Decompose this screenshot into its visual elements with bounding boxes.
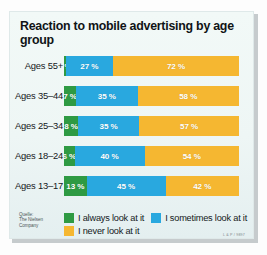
bar-segment-value: 6 % <box>64 152 75 161</box>
legend-item-always: I always look at it <box>64 213 144 223</box>
bar-segment-value: 35 % <box>98 92 116 101</box>
bar-segment-value: 45 % <box>117 182 135 191</box>
stacked-bar: 1 %27 %72 % <box>64 56 239 76</box>
bar-segment-always: 7 % <box>64 86 76 106</box>
bar-segment-value: 35 % <box>100 122 118 131</box>
bar-segment-value: 40 % <box>100 152 118 161</box>
bar-segment-value: 54 % <box>183 152 201 161</box>
legend-label-always: I always look at it <box>78 213 144 223</box>
legend-item-never: I never look at it <box>64 226 139 236</box>
row-category-label: Ages 25–34 <box>10 116 63 136</box>
stacked-bar: 7 %35 %58 % <box>64 86 239 106</box>
bar-segment-value: 58 % <box>179 92 197 101</box>
bar-segment-value: 13 % <box>66 182 84 191</box>
bar-segment-value: 72 % <box>167 62 185 71</box>
bar-segment-value: 8 % <box>64 122 78 131</box>
bar-segment-always: 8 % <box>64 116 78 136</box>
stacked-bar: 6 %40 %54 % <box>64 146 239 166</box>
bar-segment-some: 45 % <box>87 176 166 196</box>
credit-note: L & P / 9897 <box>223 233 245 237</box>
row-category-label: Ages 35–44 <box>10 86 63 106</box>
source-note: Quelle:The NielsenCompany <box>19 212 63 228</box>
stacked-bar: 13 %45 %42 % <box>64 176 239 196</box>
bar-segment-never: 54 % <box>145 146 240 166</box>
bar-segment-value: 7 % <box>64 92 76 101</box>
bar-segment-always: 13 % <box>64 176 87 196</box>
plot-area: Ages 55+1 %27 %72 %Ages 35–447 %35 %58 %… <box>10 56 254 208</box>
row-category-label: Ages 55+ <box>10 56 63 76</box>
bar-segment-never: 57 % <box>139 116 239 136</box>
bar-segment-always: 6 % <box>64 146 75 166</box>
chart-row: Ages 35–447 %35 %58 % <box>10 86 254 106</box>
legend-swatch-sometimes-icon <box>151 213 161 223</box>
bar-segment-value: 57 % <box>180 122 198 131</box>
chart-row: Ages 25–348 %35 %57 % <box>10 116 254 136</box>
bar-segment-value: 27 % <box>80 62 98 71</box>
row-category-label: Ages 13–17 <box>10 176 63 196</box>
bar-segment-some: 35 % <box>76 86 137 106</box>
bar-segment-never: 72 % <box>113 56 239 76</box>
bar-segment-never: 42 % <box>166 176 240 196</box>
row-category-label: Ages 18–24 <box>10 146 63 166</box>
bar-segment-never: 58 % <box>138 86 240 106</box>
bar-segment-some: 40 % <box>75 146 145 166</box>
legend-swatch-always-icon <box>64 213 74 223</box>
chart-row: Ages 18–246 %40 %54 % <box>10 146 254 166</box>
legend-item-sometimes: I sometimes look at it <box>151 213 247 223</box>
bar-segment-some: 35 % <box>78 116 139 136</box>
legend-label-sometimes: I sometimes look at it <box>165 213 247 223</box>
chart-row: Ages 13–1713 %45 %42 % <box>10 176 254 196</box>
infographic-chart: Reaction to mobile advertising by age gr… <box>0 0 267 255</box>
chart-panel: Reaction to mobile advertising by age gr… <box>9 11 254 239</box>
bar-segment-value: 42 % <box>193 182 211 191</box>
legend-label-never: I never look at it <box>78 226 139 236</box>
legend-swatch-never-icon <box>64 226 74 236</box>
chart-title: Reaction to mobile advertising by age gr… <box>20 20 238 47</box>
chart-row: Ages 55+1 %27 %72 % <box>10 56 254 76</box>
bar-segment-some: 27 % <box>66 56 113 76</box>
stacked-bar: 8 %35 %57 % <box>64 116 239 136</box>
